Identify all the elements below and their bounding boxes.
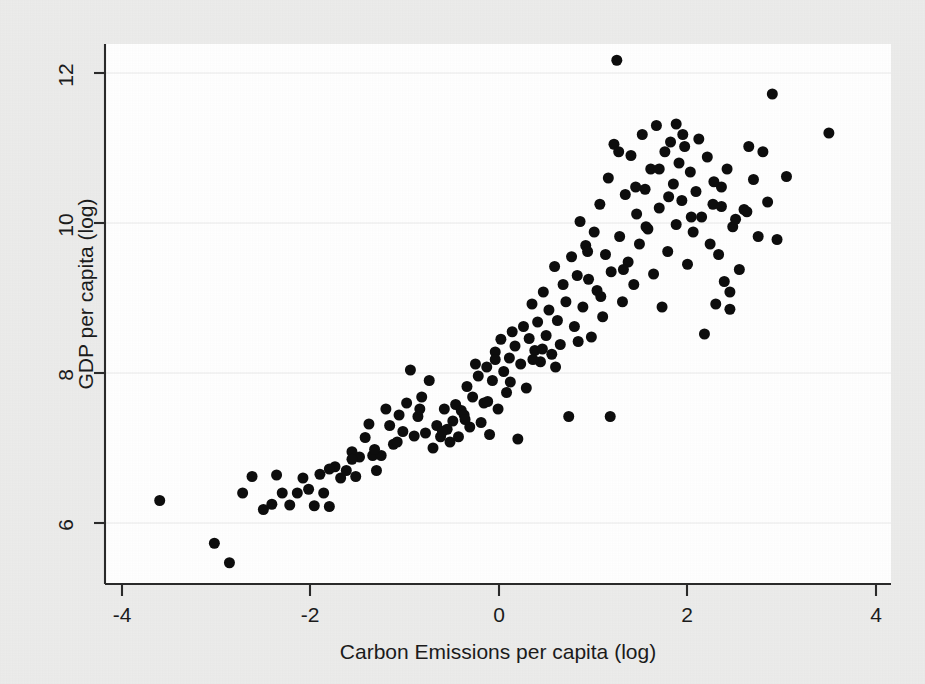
scatter-point	[401, 398, 412, 409]
scatter-point	[546, 349, 557, 360]
gridlines	[105, 73, 891, 523]
scatter-point	[490, 354, 501, 365]
scatter-point	[501, 387, 512, 398]
scatter-point	[550, 362, 561, 373]
scatter-point	[549, 261, 560, 272]
scatter-point	[573, 336, 584, 347]
scatter-point	[688, 227, 699, 238]
scatter-point	[526, 299, 537, 310]
scatter-point	[757, 146, 768, 157]
scatter-point	[611, 55, 622, 66]
scatter-point	[572, 270, 583, 281]
scatter-point	[677, 129, 688, 140]
scatter-point	[350, 471, 361, 482]
scatter-point	[518, 321, 529, 332]
scatter-point	[648, 269, 659, 280]
scatter-point	[318, 488, 329, 499]
scatter-point	[224, 557, 235, 568]
scatter-point	[467, 392, 478, 403]
scatter-point	[510, 341, 521, 352]
scatter-point	[380, 404, 391, 415]
scatter-point	[473, 371, 484, 382]
scatter-point	[696, 212, 707, 223]
scatter-point	[710, 299, 721, 310]
scatter-point	[620, 189, 631, 200]
scatter-point	[603, 173, 614, 184]
scatter-point	[505, 377, 516, 388]
scatter-point	[384, 420, 395, 431]
scatter-point	[324, 501, 335, 512]
scatter-point	[541, 330, 552, 341]
scatter-point	[369, 444, 380, 455]
scatter-point	[563, 411, 574, 422]
scatter-point	[722, 164, 733, 175]
y-axis-title: GDP per capita (log)	[74, 144, 98, 444]
axis-spines	[105, 44, 891, 584]
scatter-point	[437, 426, 448, 437]
scatter-point	[767, 89, 778, 100]
scatter-point	[606, 266, 617, 277]
scatter-point	[527, 354, 538, 365]
scatter-series	[154, 55, 834, 569]
scatter-point	[685, 167, 696, 178]
scatter-point	[654, 164, 665, 175]
scatter-point	[292, 488, 303, 499]
scatter-point	[719, 276, 730, 287]
scatter-point	[460, 414, 471, 425]
scatter-point	[713, 249, 724, 260]
scatter-point	[558, 279, 569, 290]
scatter-point	[594, 199, 605, 210]
scatter-point	[679, 141, 690, 152]
scatter-point	[686, 212, 697, 223]
scatter-point	[515, 359, 526, 370]
scatter-point	[614, 231, 625, 242]
scatter-point	[394, 410, 405, 421]
scatter-point	[734, 264, 745, 275]
scatter-point	[617, 296, 628, 307]
scatter-point	[705, 239, 716, 250]
scatter-point	[753, 231, 764, 242]
scatter-point	[266, 499, 277, 510]
scatter-point	[495, 334, 506, 345]
scatter-point	[324, 464, 335, 475]
scatter-point	[237, 488, 248, 499]
scatter-point	[487, 375, 498, 386]
scatter-point	[498, 366, 509, 377]
scatter-point	[277, 488, 288, 499]
scatter-point	[424, 375, 435, 386]
scatter-point	[618, 264, 629, 275]
scatter-point	[582, 246, 593, 257]
scatter-point	[476, 417, 487, 428]
scatter-point	[360, 432, 371, 443]
scatter-point	[538, 287, 549, 298]
scatter-point	[641, 221, 652, 232]
scatter-point	[392, 437, 403, 448]
scatter-point	[470, 359, 481, 370]
scatter-point	[716, 201, 727, 212]
scatter-point	[461, 381, 472, 392]
scatter-point	[762, 197, 773, 208]
scatter-point	[640, 184, 651, 195]
scatter-point	[575, 216, 586, 227]
scatter-point	[671, 219, 682, 230]
scatter-point	[668, 179, 679, 190]
y-tick-label-12: 12	[54, 55, 78, 95]
scatter-point	[682, 259, 693, 270]
scatter-point	[741, 206, 752, 217]
scatter-point	[524, 333, 535, 344]
scatter-point	[447, 416, 458, 427]
scatter-point	[586, 332, 597, 343]
scatter-point	[699, 329, 710, 340]
scatter-point	[346, 454, 357, 465]
x-tick-label-0: 0	[479, 603, 519, 627]
scatter-point	[481, 362, 492, 373]
scatter-point	[405, 365, 416, 376]
scatter-point	[543, 305, 554, 316]
scatter-point	[247, 471, 258, 482]
scatter-point	[555, 339, 566, 350]
scatter-point	[693, 134, 704, 145]
scatter-point	[566, 251, 577, 262]
scatter-point	[730, 214, 741, 225]
scatter-point	[724, 304, 735, 315]
scatter-point	[625, 150, 636, 161]
